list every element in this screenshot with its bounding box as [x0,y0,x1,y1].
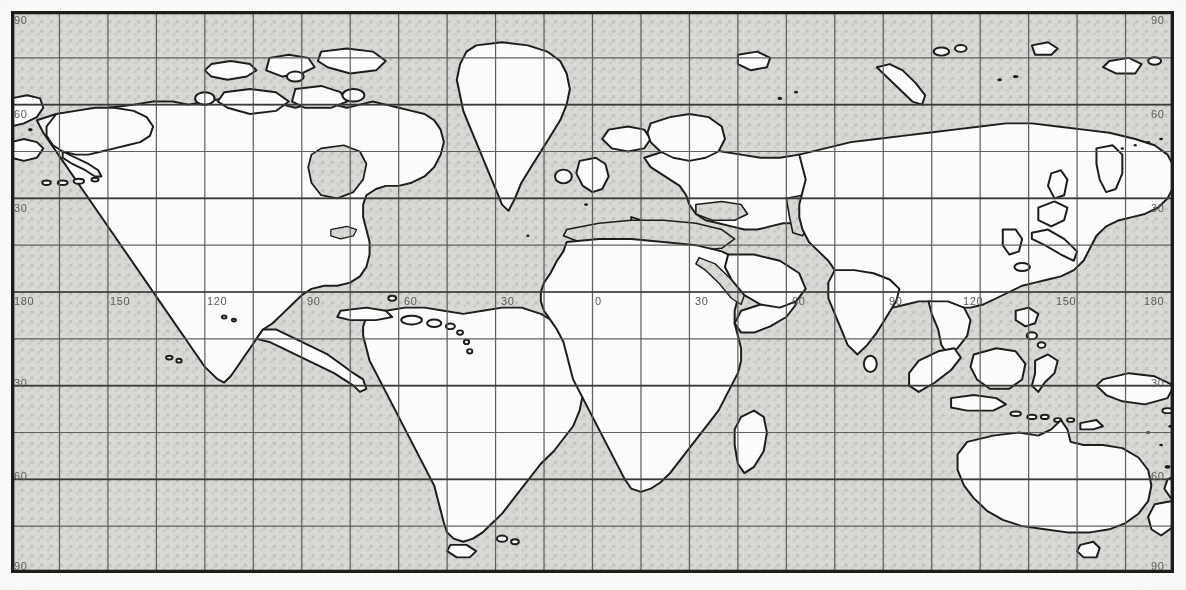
lat-label-right-30n: 30 [1151,202,1164,214]
map-frame [11,11,1174,573]
lon-label-90e: 90 [889,295,902,307]
lon-label-0: 0 [595,295,602,307]
lat-label-left-30s: 30 [14,377,27,389]
lat-label-left-60s: 60 [14,470,27,482]
lat-label-right-60s: 60 [1151,470,1164,482]
lat-label-right-30s: 30 [1151,377,1164,389]
lat-label-right-60n: 60 [1151,108,1164,120]
lat-label-left-90n: 90 [14,14,27,26]
lon-label-30e: 30 [695,295,708,307]
lon-label-120w: 120 [207,295,227,307]
lon-label-150w: 150 [110,295,130,307]
world-map-svg [11,11,1174,573]
lon-label-120e: 120 [963,295,983,307]
world-map-page: 180 150 120 90 60 30 0 30 60 90 120 150 … [0,0,1186,590]
lon-label-180w: 180 [14,295,34,307]
lat-label-left-90s: 90 [14,560,27,572]
korean-peninsula [1003,230,1022,255]
lon-label-30w: 30 [501,295,514,307]
lon-label-60w: 60 [404,295,417,307]
lat-label-right-90s: 90 [1151,560,1164,572]
tasmania-island [1077,542,1100,558]
lat-label-left-30n: 30 [14,202,27,214]
lat-label-right-90n: 90 [1151,14,1164,26]
black-sea [696,201,748,220]
lon-label-60e: 60 [792,295,805,307]
lat-label-left-60n: 60 [14,108,27,120]
lon-label-180e: 180 [1144,295,1164,307]
lon-label-90w: 90 [307,295,320,307]
lon-label-150e: 150 [1056,295,1076,307]
sri-lanka [864,356,877,372]
